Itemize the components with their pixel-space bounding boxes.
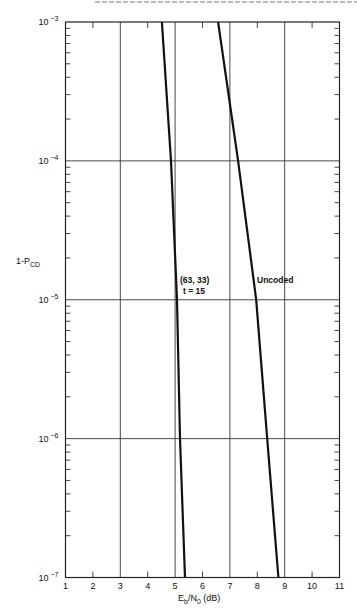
x-tick-label: 9	[282, 581, 287, 591]
x-tick-label: 1	[63, 581, 68, 591]
annotation-code-params: (63, 33)	[180, 275, 209, 285]
x-axis-title: Eb/N0 (dB)	[178, 593, 220, 605]
y-tick-label: 10 −6	[39, 432, 59, 444]
x-tick-labels: 1234567891011	[63, 581, 344, 591]
y-axis-title: 1-PCD	[16, 256, 40, 268]
x-tick-label: 7	[227, 581, 232, 591]
y-tick-label: 10 −7	[39, 571, 59, 583]
x-tick-label: 6	[200, 581, 205, 591]
x-tick-label: 2	[90, 581, 95, 591]
annotation-t-value: t = 15	[183, 286, 205, 296]
y-tick-label: 10 −5	[39, 293, 59, 305]
annotation-uncoded: Uncoded	[257, 275, 293, 285]
chart: 1234567891011 10 −310 −410 −510 −610 −7 …	[0, 0, 357, 613]
y-tick-label: 10 −3	[39, 15, 59, 27]
x-tick-label: 10	[307, 581, 317, 591]
y-tick-label: 10 −4	[39, 154, 59, 166]
gridlines	[66, 22, 340, 578]
x-tick-label: 4	[145, 581, 150, 591]
y-tick-labels: 10 −310 −410 −510 −610 −7	[39, 15, 59, 583]
x-tick-label: 3	[118, 581, 123, 591]
x-tick-label: 5	[173, 581, 178, 591]
x-tick-label: 8	[255, 581, 260, 591]
x-tick-label: 11	[335, 581, 344, 591]
